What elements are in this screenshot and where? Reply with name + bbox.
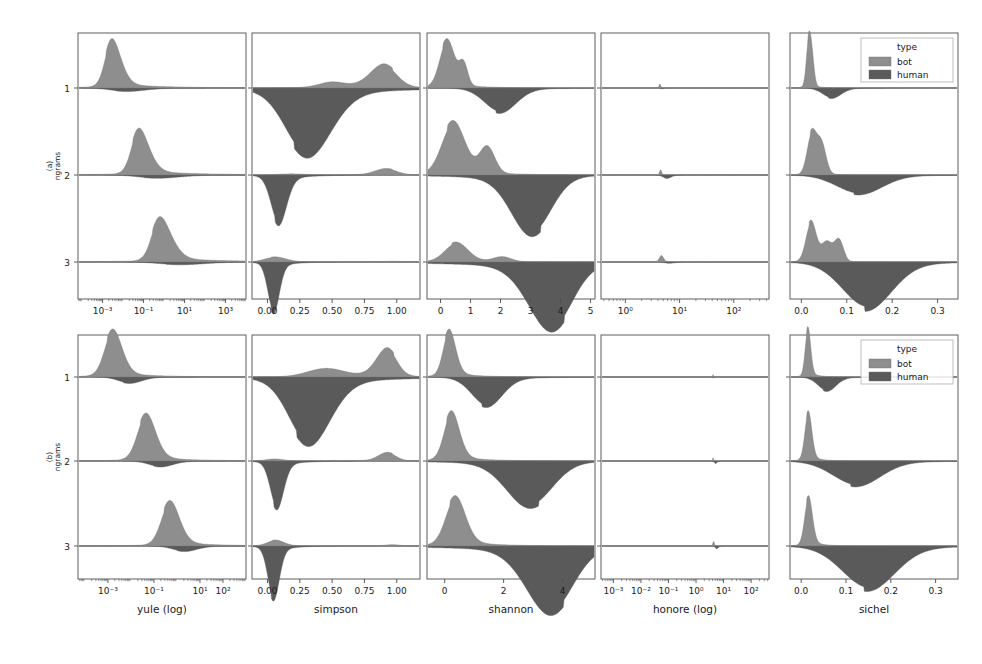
x-tick-label: 0.00: [257, 306, 277, 316]
x-tick-label: 0.50: [322, 306, 342, 316]
x-tick-label: 0.1: [839, 586, 853, 596]
x-tick-label: 0.0: [794, 586, 809, 596]
legend-label-human: human: [897, 372, 928, 382]
x-tick-label: 0.1: [840, 306, 854, 316]
x-tick-label: 0.3: [930, 306, 944, 316]
x-tick-label: 5: [588, 306, 594, 316]
x-tick-label: 1.00: [387, 306, 407, 316]
x-tick-label: 2: [501, 586, 507, 596]
x-tick-label: 10⁻¹: [134, 306, 154, 316]
x-axis-label: sichel: [859, 603, 889, 615]
x-tick-label: 0: [438, 306, 444, 316]
x-tick-label: 10¹: [716, 586, 731, 596]
x-tick-label: 0.0: [794, 306, 809, 316]
x-tick-label: 2: [498, 306, 504, 316]
x-tick-label: 0.75: [354, 306, 374, 316]
x-tick-label: 0.25: [290, 306, 310, 316]
legend-swatch-bot: [869, 57, 891, 66]
x-tick-label: 10¹: [672, 306, 687, 316]
legend-title: type: [897, 344, 918, 354]
y-tick-label: 3: [64, 542, 70, 552]
x-axis-label: honore (log): [653, 603, 717, 615]
x-tick-label: 10²: [744, 586, 759, 596]
x-tick-label: 10¹: [192, 586, 207, 596]
legend: typebothuman: [861, 340, 953, 384]
legend-title: type: [897, 42, 918, 52]
x-tick-label: 10⁰: [618, 306, 633, 316]
legend-label-bot: bot: [897, 359, 912, 369]
x-tick-label: 10⁻¹: [144, 586, 164, 596]
y-tick-label: 1: [64, 373, 70, 383]
x-tick-label: 10¹: [177, 306, 192, 316]
row-ylabel: ngrams: [53, 152, 62, 180]
legend-swatch-bot: [869, 359, 891, 368]
x-tick-label: 0.3: [928, 586, 942, 596]
x-tick-label: 1.00: [387, 586, 407, 596]
x-tick-label: 10⁻³: [603, 586, 623, 596]
x-tick-label: 0.25: [290, 586, 310, 596]
legend-swatch-human: [869, 372, 891, 381]
x-tick-label: 10⁻²: [631, 586, 651, 596]
y-tick-label: 1: [64, 84, 70, 94]
y-tick-label: 2: [64, 171, 70, 181]
x-tick-label: 10⁰: [688, 586, 703, 596]
x-tick-label: 10⁻³: [93, 306, 113, 316]
x-axis-label: simpson: [314, 603, 358, 615]
x-tick-label: 10²: [215, 586, 230, 596]
legend-label-human: human: [897, 70, 928, 80]
x-tick-label: 4: [560, 586, 566, 596]
x-tick-label: 10²: [726, 306, 741, 316]
x-tick-label: 10⁻¹: [659, 586, 679, 596]
y-tick-label: 3: [64, 258, 70, 268]
x-tick-label: 1: [468, 306, 474, 316]
x-tick-label: 0: [442, 586, 448, 596]
row-ylabel: ngrams: [53, 443, 62, 471]
x-tick-label: 4: [558, 306, 564, 316]
violin-grid-figure: 12310⁻³10⁻¹10¹10³0.000.250.500.751.00012…: [0, 0, 982, 664]
x-tick-label: 0.2: [885, 306, 899, 316]
x-tick-label: 3: [528, 306, 534, 316]
legend-swatch-human: [869, 70, 891, 79]
x-tick-label: 0.2: [884, 586, 898, 596]
x-axis-label: yule (log): [137, 603, 187, 615]
x-tick-label: 0.75: [354, 586, 374, 596]
x-tick-label: 0.50: [322, 586, 342, 596]
x-tick-label: 10³: [218, 306, 233, 316]
x-tick-label: 0.00: [257, 586, 277, 596]
legend-label-bot: bot: [897, 57, 912, 67]
y-tick-label: 2: [64, 457, 70, 467]
legend: typebothuman: [861, 38, 953, 82]
x-tick-label: 10⁻³: [98, 586, 118, 596]
x-axis-label: shannon: [489, 603, 534, 615]
figure-canvas: 12310⁻³10⁻¹10¹10³0.000.250.500.751.00012…: [0, 0, 982, 664]
